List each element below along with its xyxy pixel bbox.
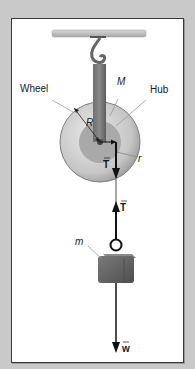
weight-label: w [121, 343, 130, 354]
mass-M-label: M [117, 76, 126, 87]
hub-label: Hub [150, 84, 169, 95]
block-ring [111, 240, 122, 251]
ceiling-bar [52, 30, 146, 37]
wheel-leader [52, 100, 73, 112]
R-label: R [86, 117, 93, 128]
pulley-diagram: Wheel Hub M R r T T m w [0, 0, 195, 369]
block-leader [88, 246, 101, 258]
wheel-label: Wheel [20, 83, 48, 94]
block [98, 256, 134, 283]
tension-label-block: T [120, 202, 126, 213]
weight-arrowhead [112, 342, 120, 353]
tension-label-wheel: T [103, 159, 109, 170]
block-mass-label: m [75, 236, 83, 247]
support-strap [93, 64, 106, 142]
r-label: r [138, 153, 142, 164]
hook-icon [92, 38, 105, 62]
tension-arrowhead-up [112, 201, 120, 212]
hook-plate [90, 36, 106, 38]
